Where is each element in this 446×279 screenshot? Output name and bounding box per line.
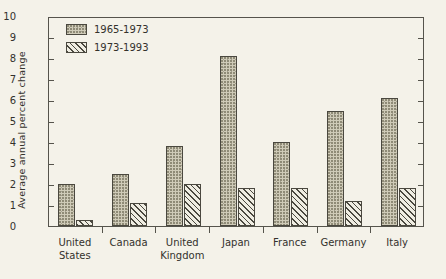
bar <box>345 201 362 226</box>
bar <box>184 184 201 226</box>
bar <box>58 184 75 226</box>
bar <box>327 111 344 227</box>
y-axis-tick-label: 1 <box>0 200 16 211</box>
bar <box>112 174 129 227</box>
bar <box>399 188 416 226</box>
x-axis-tick-label-line: States <box>35 249 115 262</box>
legend-item: 1973-1993 <box>66 40 149 55</box>
x-axis-tick-mark <box>209 227 210 233</box>
bar <box>130 203 147 226</box>
y-axis-tick-label: 2 <box>0 179 16 190</box>
legend-swatch <box>66 42 87 53</box>
y-axis-tick-label: 8 <box>0 53 16 64</box>
y-axis-tick-label: 4 <box>0 137 16 148</box>
bar <box>238 188 255 226</box>
y-axis-tick-label: 0 <box>0 221 16 232</box>
x-axis-tick-label-line: Kingdom <box>142 249 222 262</box>
x-axis-tick-mark <box>317 227 318 233</box>
x-axis-tick-mark <box>263 227 264 233</box>
y-axis-tick-label: 9 <box>0 32 16 43</box>
y-axis-tick-label: 7 <box>0 74 16 85</box>
legend-swatch <box>66 24 87 35</box>
legend-label: 1965-1973 <box>94 24 149 35</box>
x-axis-tick-mark <box>370 227 371 233</box>
y-axis-tick-label: 3 <box>0 158 16 169</box>
y-axis-label: Average annual percent change <box>16 10 32 250</box>
bar <box>273 142 290 226</box>
bar <box>166 146 183 226</box>
x-axis-tick-label-line: Italy <box>357 236 437 249</box>
x-axis-tick-mark <box>102 227 103 233</box>
x-axis-tick-mark <box>155 227 156 233</box>
figure-container: Average annual percent change 0123456789… <box>0 0 446 279</box>
x-axis-tick-label: Italy <box>357 236 437 249</box>
bar <box>76 220 93 226</box>
bar <box>220 56 237 226</box>
bar <box>381 98 398 226</box>
y-axis-tick-label: 10 <box>0 11 16 22</box>
y-axis-tick-label: 6 <box>0 95 16 106</box>
y-axis-tick-label: 5 <box>0 116 16 127</box>
bar <box>291 188 308 226</box>
legend-label: 1973-1993 <box>94 42 149 53</box>
legend-item: 1965-1973 <box>66 22 149 37</box>
legend: 1965-19731973-1993 <box>66 22 149 58</box>
